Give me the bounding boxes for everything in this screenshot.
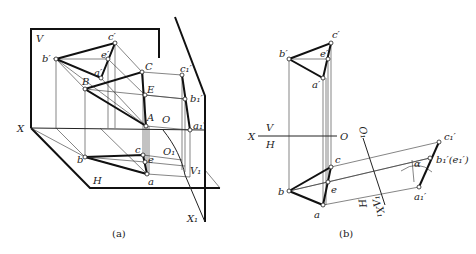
h-plane-edge <box>205 170 220 188</box>
label-e-b: e <box>331 184 337 195</box>
label-x1-b: X₁ <box>374 204 387 218</box>
label-b1-prime: b₁′ <box>190 93 203 104</box>
label-o: O <box>162 114 170 125</box>
label-a-prime: a′ <box>94 67 103 78</box>
projector-lines-b <box>289 43 439 205</box>
label-v1: V₁ <box>190 165 201 176</box>
label-h-new-b: H <box>357 198 370 210</box>
x1-axis <box>163 130 205 222</box>
label-c1-prime-b: c₁′ <box>444 131 457 142</box>
label-E: E <box>146 84 155 95</box>
label-v: V <box>36 33 45 44</box>
label-C: C <box>145 61 153 72</box>
label-e-prime-b: e′ <box>320 48 329 59</box>
caption-b: (b) <box>339 228 353 239</box>
label-b-prime-b: b′ <box>279 48 288 59</box>
label-a-b: a <box>314 209 320 220</box>
label-v-b: V <box>266 122 275 133</box>
label-a1-prime: a₁′ <box>193 120 206 131</box>
label-o1-b: O₁ <box>357 125 370 139</box>
label-a: a <box>148 176 154 187</box>
label-c1-prime: c₁′ <box>180 63 193 74</box>
label-o-b: O <box>340 131 348 142</box>
label-o1: O₁ <box>163 146 175 157</box>
label-e: e <box>148 154 154 165</box>
label-e-prime: e′ <box>101 49 110 60</box>
label-x: X <box>16 123 25 134</box>
v1-edge-view <box>182 75 190 130</box>
x1-axis-b <box>363 138 385 205</box>
label-b1e1-prime-b: b₁′(e₁′) <box>436 154 469 165</box>
triangle-space <box>85 72 146 126</box>
h-plane-frame <box>31 128 220 188</box>
figure-a: V X H O O₁ V₁ X₁ b′ c′ e′ a′ B C E A c₁′… <box>16 17 220 239</box>
label-b-prime: b′ <box>42 53 51 64</box>
label-a1-prime-b: a₁′ <box>414 191 427 202</box>
label-x-b: X <box>247 131 256 142</box>
label-B: B <box>81 76 89 87</box>
label-c: c <box>135 144 141 155</box>
label-alpha: α <box>414 158 421 169</box>
figure-b: X V H O b′ c′ e′ a′ b c e a c₁′ b₁′(e₁′)… <box>247 29 469 239</box>
label-h-b: H <box>265 139 275 150</box>
label-c-b: c <box>335 154 341 165</box>
points-b <box>287 41 441 207</box>
label-b-b: b <box>278 186 284 197</box>
label-c-prime: c′ <box>108 31 117 42</box>
label-A: A <box>146 112 154 123</box>
label-x1: X₁ <box>186 213 198 224</box>
label-b: b <box>77 154 83 165</box>
label-a-prime-b: a′ <box>312 79 321 90</box>
label-c-prime-b: c′ <box>332 29 341 40</box>
label-h: H <box>92 175 102 186</box>
caption-a: (a) <box>112 228 126 239</box>
v-plane-frame <box>31 29 159 128</box>
projection-diagram: V X H O O₁ V₁ X₁ b′ c′ e′ a′ B C E A c₁′… <box>0 0 476 254</box>
